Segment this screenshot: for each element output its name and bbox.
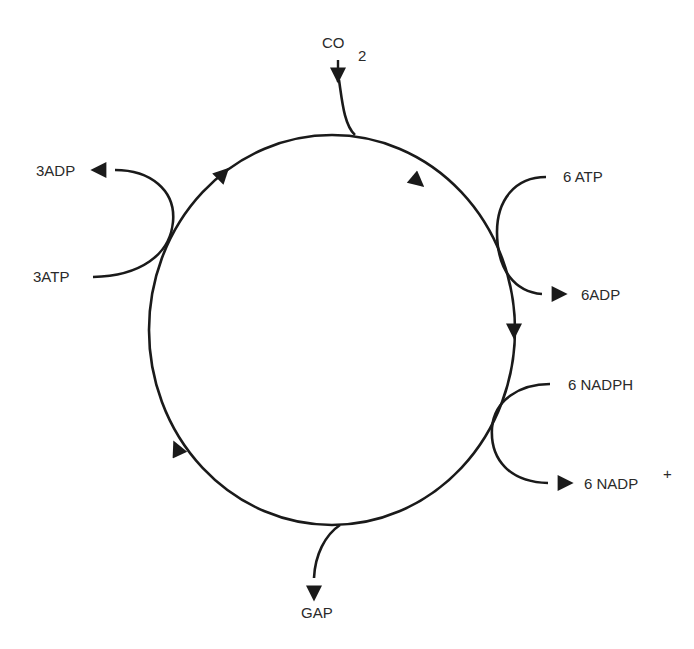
- gap-output-curve: [314, 525, 340, 578]
- atp3-label: 3ATP: [33, 269, 69, 284]
- adp3-label: 3ADP: [36, 163, 75, 178]
- nadph-to-nadp-curve: [492, 384, 550, 483]
- cycle-arrow-lower-left: [174, 442, 183, 462]
- calvin-cycle-diagram: [0, 0, 694, 649]
- nadph6-label: 6 NADPH: [568, 377, 633, 392]
- cycle-ring: [149, 135, 515, 525]
- cycle-direction-arrows: [174, 169, 514, 462]
- atp6-to-adp6-curve: [497, 177, 546, 294]
- adp6-label: 6ADP: [581, 287, 620, 302]
- co2-label: CO: [322, 35, 345, 50]
- nadp6-superscript: +: [663, 466, 672, 481]
- gap-label: GAP: [301, 605, 333, 620]
- atp6-label: 6 ATP: [563, 169, 603, 184]
- nadp6-label: 6 NADP: [584, 476, 638, 491]
- co2-input-curve: [339, 80, 355, 135]
- cycle-arrow-top-right: [404, 170, 423, 186]
- co2-subscript: 2: [358, 48, 366, 63]
